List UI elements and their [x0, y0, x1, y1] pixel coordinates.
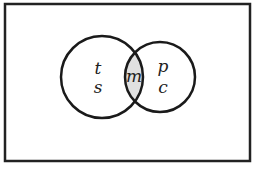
label-t: t	[95, 58, 102, 78]
label-p: p	[158, 56, 169, 76]
venn-diagram: t s m p c	[0, 0, 268, 171]
label-m: m	[126, 66, 142, 86]
label-s: s	[94, 77, 103, 97]
label-c: c	[158, 77, 168, 97]
